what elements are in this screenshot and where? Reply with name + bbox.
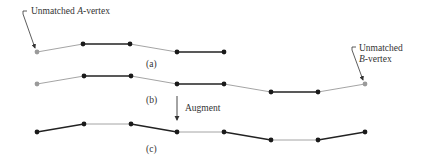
free-vertex (35, 82, 40, 87)
matched-edge (37, 124, 84, 132)
vertex (175, 82, 180, 87)
path-b (35, 74, 368, 95)
vertex (363, 130, 368, 135)
augmenting-path-diagram: Unmatched A-vertex Unmatched B-vertex Au… (0, 0, 432, 159)
unmatched-b-label-line2: B-vertex (359, 54, 392, 64)
unmatched-b-vertex-callout: Unmatched B-vertex (352, 43, 403, 80)
unmatched-a-vertex-callout: Unmatched A-vertex (23, 6, 110, 48)
unmatched-edge (37, 44, 83, 52)
vertex (175, 50, 180, 55)
vertex (269, 138, 274, 143)
vertex (128, 42, 133, 47)
unmatched-edge (131, 76, 177, 84)
path-a (35, 42, 227, 55)
vertex (82, 74, 87, 79)
matched-edge (224, 132, 271, 140)
unmatched-a-label: Unmatched A-vertex (31, 6, 110, 16)
panel-label-c: (c) (146, 144, 157, 155)
path-c (35, 122, 368, 143)
vertex (222, 82, 227, 87)
unmatched-b-label-line1: Unmatched (359, 43, 403, 53)
matched-edge (131, 124, 177, 132)
free-vertex (363, 82, 368, 87)
vertex (129, 122, 134, 127)
vertex (269, 90, 274, 95)
panel-label-b: (b) (146, 95, 157, 106)
vertex (316, 138, 321, 143)
unmatched-edge (37, 76, 84, 84)
vertex (316, 90, 321, 95)
panel-label-a: (a) (146, 59, 157, 70)
vertex (82, 122, 87, 127)
callout-arrow-icon (23, 11, 35, 48)
vertex (175, 130, 180, 135)
augment-label: Augment (185, 103, 221, 113)
augment-arrow: Augment (177, 96, 221, 120)
unmatched-edge (224, 84, 271, 92)
vertex (35, 130, 40, 135)
vertex (222, 50, 227, 55)
matched-edge (318, 132, 365, 140)
unmatched-edge (318, 84, 365, 92)
free-vertex (35, 50, 40, 55)
vertex (222, 130, 227, 135)
unmatched-edge (130, 44, 177, 52)
vertex (129, 74, 134, 79)
vertex (81, 42, 86, 47)
